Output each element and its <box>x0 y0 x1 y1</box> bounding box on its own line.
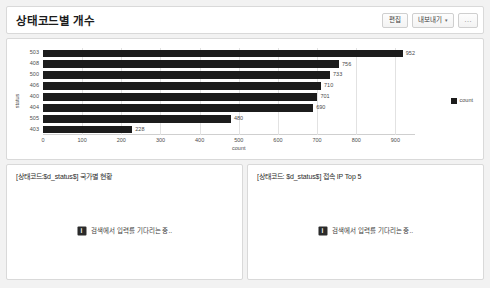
chart-canvas: status 0100200300400500600700800900count… <box>11 44 479 157</box>
bar[interactable] <box>43 71 330 79</box>
bar[interactable] <box>43 82 321 90</box>
x-axis-tick: 900 <box>391 138 400 144</box>
country-status-panel: [상태코드:$d_status$] 국가별 현황 i 검색에서 입력를 기다리는… <box>6 164 243 280</box>
bar-value-label: 952 <box>406 51 415 57</box>
bar-row[interactable]: 404690 <box>43 104 415 112</box>
top-ip-waiting-message: i 검색에서 입력를 기다리는 중.. <box>318 227 413 236</box>
country-status-waiting-message: i 검색에서 입력를 기다리는 중.. <box>77 227 172 236</box>
bar-row[interactable]: 500733 <box>43 71 415 79</box>
x-axis-tick: 500 <box>234 138 243 144</box>
bar-value-label: 228 <box>135 127 144 133</box>
bar[interactable] <box>43 104 313 112</box>
status-code-bar-chart-panel: status 0100200300400500600700800900count… <box>6 38 484 160</box>
top-ip-panel-title: [상태코드: $d_status$] 접속 IP Top 5 <box>257 173 474 180</box>
bar-row[interactable]: 400701 <box>43 93 415 101</box>
x-axis-tick: 700 <box>313 138 322 144</box>
plot-area: 0100200300400500600700800900count5039524… <box>43 48 415 135</box>
bar-value-label: 733 <box>333 72 342 78</box>
x-axis-tick: 100 <box>78 138 87 144</box>
page-title: 상태코드별 개수 <box>16 12 382 28</box>
bar-row[interactable]: 406710 <box>43 82 415 90</box>
y-axis-tick: 403 <box>30 127 39 133</box>
y-axis-tick: 503 <box>30 51 39 57</box>
bar-value-label: 756 <box>342 62 351 68</box>
bar-value-label: 710 <box>324 83 333 89</box>
bar-row[interactable]: 505480 <box>43 115 415 123</box>
more-options-button[interactable]: … <box>458 13 478 28</box>
x-axis-tick: 400 <box>195 138 204 144</box>
dashboard-header: 상태코드별 개수 편집 내보내기 ▾ … <box>6 6 484 34</box>
country-status-panel-title: [상태코드:$d_status$] 국가별 현황 <box>16 173 233 180</box>
x-axis-tick: 600 <box>273 138 282 144</box>
x-axis-tick: 200 <box>117 138 126 144</box>
y-axis-tick: 505 <box>30 116 39 122</box>
export-button-label: 내보내기 <box>418 17 442 24</box>
y-axis-tick: 408 <box>30 62 39 68</box>
y-axis-title: status <box>14 93 20 108</box>
y-axis-tick: 404 <box>30 105 39 111</box>
y-axis-tick: 400 <box>30 94 39 100</box>
bar-value-label: 690 <box>316 105 325 111</box>
top-ip-panel: [상태코드: $d_status$] 접속 IP Top 5 i 검색에서 입력… <box>247 164 484 280</box>
info-icon: i <box>318 227 327 236</box>
export-button[interactable]: 내보내기 ▾ <box>412 13 454 28</box>
ellipsis-icon: … <box>464 16 472 24</box>
header-actions: 편집 내보내기 ▾ … <box>382 13 478 28</box>
bar-value-label: 480 <box>234 116 243 122</box>
bar[interactable] <box>43 115 231 123</box>
bar[interactable] <box>43 50 403 58</box>
country-status-waiting-text: 검색에서 입력를 기다리는 중.. <box>91 228 172 235</box>
x-axis-tick: 0 <box>41 138 44 144</box>
y-axis-tick: 500 <box>30 72 39 78</box>
x-axis-title: count <box>232 146 245 152</box>
bar[interactable] <box>43 126 132 134</box>
y-axis-tick: 406 <box>30 83 39 89</box>
info-icon: i <box>77 227 86 236</box>
edit-button[interactable]: 편집 <box>382 13 408 28</box>
bar-row[interactable]: 503952 <box>43 50 415 58</box>
x-axis-line <box>43 134 415 135</box>
chevron-down-icon: ▾ <box>445 18 448 23</box>
bar-row[interactable]: 403228 <box>43 126 415 134</box>
bar[interactable] <box>43 60 339 68</box>
bottom-panels-row: [상태코드:$d_status$] 국가별 현황 i 검색에서 입력를 기다리는… <box>6 164 484 280</box>
chart-legend: count <box>451 98 473 104</box>
x-axis-tick: 800 <box>352 138 361 144</box>
bar[interactable] <box>43 93 317 101</box>
x-axis-tick: 300 <box>156 138 165 144</box>
edit-button-label: 편집 <box>389 17 401 24</box>
legend-label-count: count <box>460 98 473 104</box>
top-ip-waiting-text: 검색에서 입력를 기다리는 중.. <box>332 228 413 235</box>
bar-value-label: 701 <box>320 94 329 100</box>
legend-swatch-count <box>451 98 457 104</box>
dashboard-root: 상태코드별 개수 편집 내보내기 ▾ … status 010020030040… <box>0 0 490 288</box>
bar-row[interactable]: 408756 <box>43 60 415 68</box>
